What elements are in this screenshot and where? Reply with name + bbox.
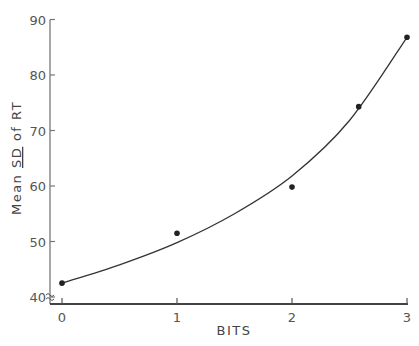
y-axis: 405060708090 xyxy=(29,13,55,306)
data-points xyxy=(59,34,410,285)
data-point xyxy=(356,104,362,110)
x-tick-label: 1 xyxy=(173,310,181,325)
chart: 405060708090 0123 BITS Mean SD of RT xyxy=(0,0,419,346)
data-point xyxy=(59,280,65,286)
x-tick-label: 0 xyxy=(58,310,66,325)
data-point xyxy=(174,230,180,236)
y-tick-label: 80 xyxy=(29,68,46,83)
y-tick-label: 40 xyxy=(29,290,46,305)
y-tick-label: 70 xyxy=(29,124,46,139)
fitted-curve xyxy=(62,37,407,283)
x-tick-label: 3 xyxy=(403,310,411,325)
data-point xyxy=(289,184,295,190)
x-axis-title: BITS xyxy=(217,323,252,338)
y-tick-label: 60 xyxy=(29,179,46,194)
data-point xyxy=(404,34,410,40)
x-tick-label: 2 xyxy=(288,310,296,325)
x-axis: 0123 xyxy=(50,298,411,325)
y-axis-title: Mean SD of RT xyxy=(9,101,24,215)
y-tick-label: 50 xyxy=(29,235,46,250)
y-tick-label: 90 xyxy=(29,13,46,28)
